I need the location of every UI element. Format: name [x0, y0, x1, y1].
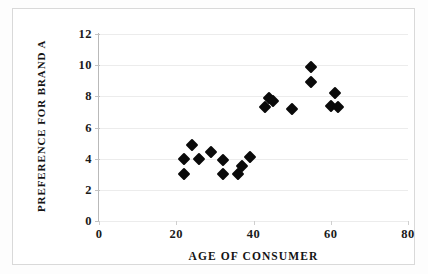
y-tick-label: 8: [85, 89, 92, 104]
y-axis-title: PREFERENCE FOR BRAND A: [33, 31, 49, 221]
x-tick-mark: [408, 221, 409, 225]
data-point: [305, 76, 318, 89]
gridline: [99, 96, 408, 97]
y-tick-mark: [95, 128, 100, 129]
gridline: [99, 128, 408, 129]
y-tick-mark: [95, 65, 100, 66]
y-tick-mark: [95, 96, 100, 97]
x-tick-mark: [331, 221, 332, 225]
y-tick-mark: [95, 159, 100, 160]
y-tick-mark: [95, 190, 100, 191]
y-tick-label: 10: [79, 58, 93, 73]
data-point: [205, 146, 218, 159]
data-point: [328, 87, 341, 100]
y-tick-label: 4: [85, 151, 92, 166]
data-point: [286, 102, 299, 115]
y-tick-label: 6: [85, 120, 92, 135]
data-point: [305, 60, 318, 73]
data-point: [178, 152, 191, 165]
data-point: [193, 152, 206, 165]
data-point: [243, 151, 256, 164]
data-point: [216, 154, 229, 167]
gridline: [99, 34, 408, 35]
x-axis-title: AGE OF CONSUMER: [99, 250, 408, 262]
x-tick-label: 20: [170, 227, 184, 242]
x-tick-mark: [176, 221, 177, 225]
data-point: [178, 168, 191, 181]
x-tick-mark: [254, 221, 255, 225]
scatter-plot-figure: PREFERENCE FOR BRAND A 024681012 0204060…: [0, 0, 428, 274]
plot-area: 024681012: [99, 34, 408, 221]
gridline: [99, 190, 408, 191]
data-point: [185, 138, 198, 151]
data-point: [216, 168, 229, 181]
y-tick-label: 0: [85, 214, 92, 229]
x-tick-label: 60: [324, 227, 338, 242]
y-tick-label: 2: [85, 182, 92, 197]
y-tick-mark: [95, 34, 100, 35]
x-tick-mark: [99, 221, 100, 225]
gridline: [99, 65, 408, 66]
chart-frame: PREFERENCE FOR BRAND A 024681012 0204060…: [12, 8, 415, 265]
x-tick-label: 40: [247, 227, 261, 242]
x-tick-label: 80: [401, 227, 415, 242]
data-point: [332, 101, 345, 114]
x-tick-label: 0: [96, 227, 103, 242]
y-tick-label: 12: [79, 27, 93, 42]
